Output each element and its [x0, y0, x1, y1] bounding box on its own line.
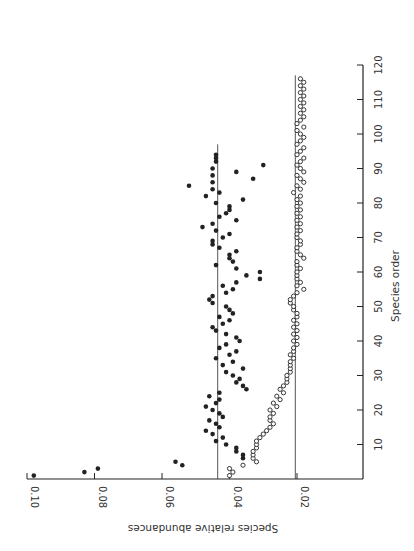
data-point-filled: [217, 411, 222, 416]
data-point-filled: [234, 335, 239, 340]
data-point-open: [298, 91, 302, 95]
data-point-filled: [210, 239, 215, 244]
data-point-open: [298, 177, 302, 181]
data-point-filled: [261, 163, 266, 168]
data-point-filled: [214, 201, 219, 206]
data-point-filled: [204, 428, 209, 433]
data-point-filled: [214, 228, 219, 233]
abundance-tick-label: 0.02: [299, 486, 310, 508]
data-point-open: [302, 135, 306, 139]
data-point-filled: [244, 387, 249, 392]
data-point-open: [288, 353, 292, 357]
data-point-filled: [217, 315, 222, 320]
data-point-open: [298, 132, 302, 136]
data-point-open: [295, 225, 299, 229]
data-point-open: [302, 108, 306, 112]
data-point-open: [298, 84, 302, 88]
species-tick-label: 60: [373, 266, 384, 279]
data-point-open: [295, 173, 299, 177]
data-point-filled: [244, 273, 249, 278]
data-point-open: [298, 166, 302, 170]
data-point-filled: [234, 170, 239, 175]
data-point-open: [298, 222, 302, 226]
data-point-open: [292, 325, 296, 329]
data-point-open: [302, 256, 306, 260]
data-point-filled: [32, 473, 37, 478]
data-point-open: [295, 122, 299, 126]
abundance-axis: 0.020.040.060.080.10: [27, 473, 363, 508]
species-tick-label: 20: [373, 404, 384, 417]
data-point-filled: [210, 325, 215, 330]
data-point-filled: [221, 415, 226, 420]
data-point-open: [302, 125, 306, 129]
data-point-open: [295, 284, 299, 288]
data-point-open: [298, 253, 302, 257]
data-point-filled: [234, 266, 239, 271]
data-point-filled: [214, 422, 219, 427]
data-point-filled: [217, 425, 222, 430]
data-point-filled: [217, 190, 222, 195]
data-point-filled: [241, 453, 246, 458]
data-point-open: [292, 346, 296, 350]
data-point-filled: [214, 439, 219, 444]
data-point-open: [295, 142, 299, 146]
data-point-open: [295, 204, 299, 208]
data-point-open: [302, 146, 306, 150]
data-point-filled: [237, 377, 242, 382]
data-point-filled: [210, 294, 215, 299]
data-point-open: [298, 160, 302, 164]
data-point-filled: [217, 215, 222, 220]
data-point-open: [268, 408, 272, 412]
data-point-open: [227, 467, 231, 471]
data-point-open: [254, 460, 258, 464]
data-point-filled: [234, 446, 239, 451]
data-point-open: [292, 339, 296, 343]
data-point-filled: [210, 166, 215, 171]
data-point-filled: [210, 180, 215, 185]
data-point-filled: [221, 363, 226, 368]
data-point-open: [278, 387, 282, 391]
data-point-open: [295, 153, 299, 157]
species-axis-title: Species order: [389, 249, 401, 321]
series-filled-points: [32, 152, 266, 478]
species-tick-label: 40: [373, 335, 384, 348]
species-tick-label: 110: [373, 90, 384, 109]
data-point-open: [298, 187, 302, 191]
data-point-filled: [224, 332, 229, 337]
abundance-tick-label: 0.04: [232, 486, 243, 508]
data-point-filled: [234, 280, 239, 285]
data-point-filled: [221, 435, 226, 440]
data-point-open: [295, 184, 299, 188]
data-point-filled: [221, 284, 226, 289]
data-point-open: [295, 322, 299, 326]
data-point-open: [292, 356, 296, 360]
data-point-open: [298, 215, 302, 219]
data-point-filled: [231, 259, 236, 264]
data-point-open: [302, 170, 306, 174]
data-point-open: [295, 311, 299, 315]
data-point-open: [278, 398, 282, 402]
data-point-open: [298, 239, 302, 243]
data-point-filled: [224, 290, 229, 295]
data-point-open: [285, 373, 289, 377]
data-point-open: [295, 291, 299, 295]
data-point-filled: [234, 349, 239, 354]
data-point-filled: [224, 442, 229, 447]
data-point-open: [295, 198, 299, 202]
data-point-filled: [217, 346, 222, 351]
data-point-open: [298, 118, 302, 122]
data-point-open: [295, 260, 299, 264]
species-tick-label: 80: [373, 197, 384, 210]
data-point-filled: [204, 404, 209, 409]
data-point-filled: [210, 221, 215, 226]
data-point-open: [231, 470, 235, 474]
data-point-open: [275, 394, 279, 398]
data-point-filled: [207, 297, 212, 302]
data-point-open: [288, 360, 292, 364]
scatter-chart: 0.020.040.060.080.10 1020304050607080901…: [0, 0, 414, 551]
data-point-filled: [234, 380, 239, 385]
data-point-filled: [224, 304, 229, 309]
data-point-open: [292, 191, 296, 195]
data-point-open: [298, 139, 302, 143]
data-point-open: [295, 329, 299, 333]
